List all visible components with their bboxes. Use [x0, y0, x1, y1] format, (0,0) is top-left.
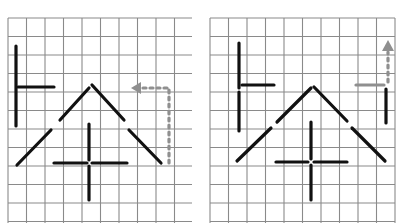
move-indicator-arrow-up-icon — [382, 40, 394, 82]
arrowhead-icon — [382, 40, 394, 51]
matchstick — [277, 88, 311, 122]
panel-after-grid — [210, 18, 395, 223]
move-path — [140, 88, 169, 163]
matchstick-puzzle-diagram — [0, 0, 403, 223]
matchsticks — [237, 43, 386, 200]
matchstick — [352, 128, 385, 161]
matchsticks — [16, 46, 161, 200]
matchstick — [60, 88, 89, 120]
panel-before-grid — [8, 18, 192, 223]
graph-paper-grid — [8, 18, 192, 223]
